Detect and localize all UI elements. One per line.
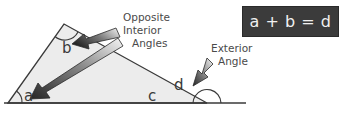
angle-label-c: c: [148, 87, 156, 105]
callout-interior-line3: Angles: [132, 37, 167, 49]
callout-interior-line2: Interior: [123, 24, 162, 36]
callout-exterior-line2: Angle: [218, 55, 248, 67]
angle-label-b: b: [62, 39, 72, 57]
equation-box: a + b = d: [242, 6, 339, 37]
callout-exterior-line1: Exterior: [211, 42, 253, 54]
equation-text: a + b = d: [250, 12, 332, 31]
angle-label-d: d: [174, 76, 184, 94]
angle-label-a: a: [24, 87, 33, 105]
arrow-to-angle-d-icon: [193, 58, 213, 86]
callout-interior-line1: Opposite: [123, 11, 170, 23]
